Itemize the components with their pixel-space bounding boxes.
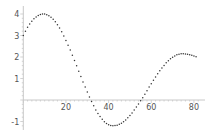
data-point [76,65,78,67]
data-point [57,24,59,26]
data-point [104,121,106,123]
data-point [183,53,185,55]
data-point [65,40,67,42]
data-point [108,124,110,126]
data-point [112,125,114,127]
data-point [40,14,42,16]
data-point [69,49,71,51]
data-point [155,76,157,78]
data-point [165,62,167,64]
data-point [157,73,159,75]
data-point [33,18,35,20]
data-point [131,112,133,114]
data-point [50,16,52,18]
data-point [174,55,176,57]
data-point [59,27,61,29]
data-point [133,109,135,111]
data-point [146,90,148,92]
scatter-plot: 20406080 -11234 [0,0,211,138]
data-point [52,18,54,20]
data-point [116,124,118,126]
data-point [42,13,44,15]
data-point [106,123,108,125]
x-axis-ticks: 20406080 [61,103,199,112]
data-point [44,13,46,15]
data-point [140,100,142,102]
data-point [185,53,187,55]
data-point [31,21,33,23]
x-tick-label: 60 [146,103,156,112]
y-tick-label: -1 [11,118,19,127]
data-point [178,53,180,55]
data-point [125,119,127,121]
data-point [163,65,165,67]
data-point [119,124,121,126]
data-point [168,60,170,62]
data-point [127,117,129,119]
data-point [97,113,99,115]
y-tick-label: 4 [14,10,19,19]
data-point [89,96,91,98]
data-point [151,83,153,85]
y-tick-label: 1 [14,75,19,84]
data-point [189,54,191,56]
data-point [159,70,161,72]
data-point [67,44,69,46]
data-point [91,101,93,103]
data-point [46,14,48,16]
y-tick-label: 3 [14,32,19,41]
data-point [170,58,172,60]
data-point [123,121,125,123]
data-point [129,115,131,117]
data-point [55,21,57,23]
x-tick-label: 40 [104,103,114,112]
data-point [82,81,84,83]
y-axis-ticks: -11234 [11,10,19,127]
data-point [153,79,155,81]
data-point [80,76,82,78]
data-point [99,116,101,118]
data-point [148,86,150,88]
data-point [195,56,197,58]
data-point [93,105,95,107]
data-point [78,70,80,72]
data-point [144,93,146,95]
data-point [61,31,63,33]
data-point [27,27,29,29]
data-point [193,55,195,57]
y-tick-label: 2 [14,53,19,62]
data-point [23,35,25,37]
data-point [63,35,64,37]
data-point [87,91,89,93]
data-point [114,125,116,127]
data-point [37,15,39,17]
data-point [48,15,50,17]
data-point [172,56,174,58]
data-point [72,55,74,57]
x-tick-label: 20 [61,103,71,112]
x-tick-label: 80 [189,103,199,112]
data-point [191,55,193,57]
data-point [74,60,76,62]
data-point [136,106,138,108]
data-point [95,109,97,111]
data-point [187,53,189,55]
data-point [25,30,27,32]
data-point [161,67,163,69]
data-point [29,23,31,25]
data-point [101,119,103,121]
data-point [121,122,123,124]
data-point [180,53,182,55]
data-point [138,103,140,105]
data-point [142,97,144,99]
data-point [176,54,178,56]
data-point [84,86,86,88]
data-point [110,125,112,127]
data-point [35,16,37,18]
